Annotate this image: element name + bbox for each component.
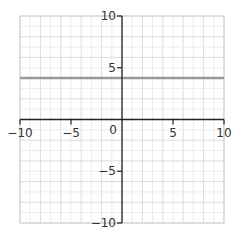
- y-tick-label: 10: [101, 9, 116, 23]
- y-tick-label: −10: [91, 216, 116, 230]
- coordinate-plane: −10−50510105−5−10: [0, 0, 239, 233]
- x-tick-label: 0: [109, 123, 117, 137]
- y-tick-label: 5: [108, 61, 116, 75]
- x-tick-label: 10: [216, 126, 231, 140]
- x-tick-label: −5: [62, 126, 80, 140]
- x-tick-label: −10: [7, 126, 32, 140]
- y-tick-label: −5: [98, 164, 116, 178]
- x-tick-label: 5: [169, 126, 177, 140]
